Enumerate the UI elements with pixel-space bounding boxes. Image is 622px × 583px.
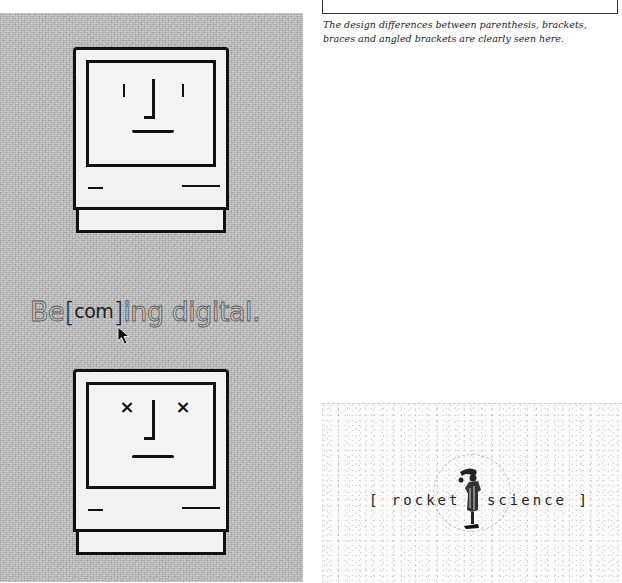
right-eye	[182, 84, 184, 97]
rocket-science-logo: [ rocket science ]	[322, 403, 622, 583]
scientist-figure-icon	[456, 466, 486, 534]
nose	[152, 79, 155, 119]
tagline-close-bracket: ]	[113, 296, 123, 327]
floppy-slot	[182, 185, 220, 187]
becoming-digital-tagline: Be[com]ing digital.	[30, 296, 260, 327]
flat-mouth	[132, 455, 174, 458]
tagline-suffix: ing digital.	[123, 296, 260, 327]
becoming-digital-illustration: Be[com]ing digital. × ×	[0, 13, 303, 582]
mouse-pointer-icon	[117, 326, 133, 348]
mac-body	[73, 47, 229, 210]
right-x-eye: ×	[175, 399, 191, 415]
mac-screen	[86, 60, 216, 167]
figure-caption: The design differences between parenthes…	[323, 18, 618, 46]
left-eye	[123, 84, 125, 97]
logo-text-science: science ]	[487, 492, 590, 508]
mac-slot-left	[88, 187, 103, 189]
mac-slot-left	[88, 509, 103, 511]
tagline-inner: com	[74, 300, 113, 322]
nose-base	[144, 437, 155, 440]
mac-body: × ×	[73, 369, 229, 532]
mac-base	[76, 210, 226, 233]
mac-base	[76, 532, 226, 555]
tagline-open-bracket: [	[64, 296, 74, 327]
logo-text-rocket: [ rocket	[369, 492, 460, 508]
mac-screen: × ×	[86, 382, 216, 489]
figure-frame	[322, 0, 618, 14]
nose	[152, 400, 155, 440]
nose-base	[144, 116, 155, 119]
left-x-eye: ×	[119, 399, 135, 415]
floppy-slot	[182, 507, 220, 509]
tagline-prefix: Be	[30, 296, 64, 327]
smile-mouth	[132, 130, 174, 133]
